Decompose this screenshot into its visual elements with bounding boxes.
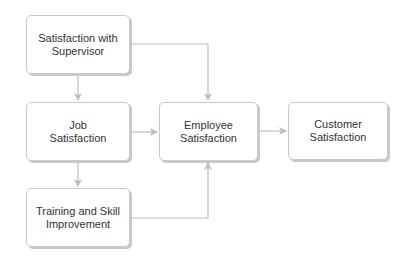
node-satisfaction-with-supervisor: Satisfaction with Supervisor [26,15,130,74]
node-label: Satisfaction with Supervisor [38,32,118,58]
node-customer-satisfaction: Customer Satisfaction [288,102,388,160]
edge-supervisor-employee [131,44,208,100]
node-job-satisfaction: Job Satisfaction [26,102,130,161]
node-label: Training and Skill Improvement [33,205,123,231]
node-label: Employee Satisfaction [174,119,244,145]
node-training-and-skill-improvement: Training and Skill Improvement [26,188,130,247]
node-label: Job Satisfaction [43,119,113,145]
node-employee-satisfaction: Employee Satisfaction [159,102,258,161]
node-label: Customer Satisfaction [303,118,373,144]
edge-training-employee [131,163,208,218]
